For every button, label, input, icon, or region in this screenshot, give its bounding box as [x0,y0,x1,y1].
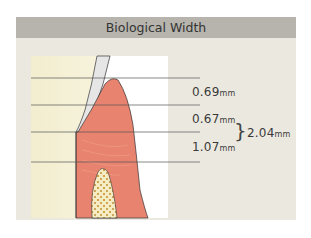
measurement-epithelial-attachment: 0.67mm [192,112,236,126]
brace-icon: } [234,119,247,143]
measurement-connective-attachment: 1.07mm [192,140,236,154]
measurement-total: 2.04mm [247,126,291,140]
biological-width-illustration [0,0,311,238]
measurement-sulcus: 0.69mm [192,85,236,99]
